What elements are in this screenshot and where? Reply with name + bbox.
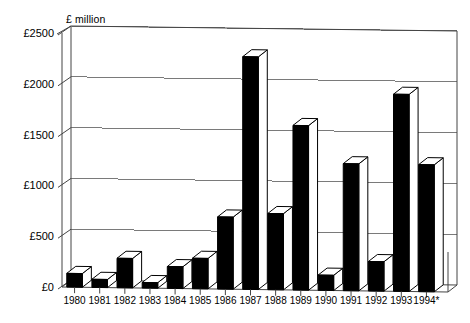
bar-1985[interactable] (192, 251, 217, 289)
bar-1982[interactable] (117, 251, 142, 288)
bars-group (67, 50, 443, 292)
bar-1993[interactable] (394, 87, 419, 291)
bar-1991[interactable] (343, 157, 368, 291)
bar-1987[interactable] (243, 50, 268, 290)
bar-1994[interactable] (419, 158, 444, 292)
bar-1990[interactable] (318, 268, 343, 290)
bar-1983[interactable] (142, 275, 167, 288)
bar-1981[interactable] (92, 272, 117, 287)
bar-1989[interactable] (293, 118, 318, 290)
plot-area (0, 0, 470, 323)
bar-1988[interactable] (268, 206, 293, 289)
bar-1984[interactable] (167, 260, 192, 289)
bar-chart: £ million £0£500£1000£1500£2000£2500 198… (0, 0, 470, 323)
bar-1992[interactable] (368, 255, 393, 292)
bar-1980[interactable] (67, 266, 92, 287)
bar-1986[interactable] (218, 210, 243, 289)
